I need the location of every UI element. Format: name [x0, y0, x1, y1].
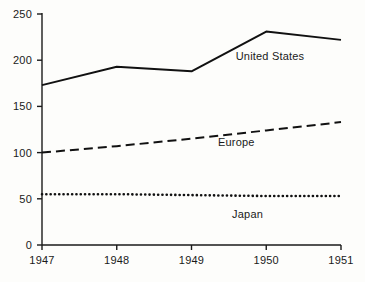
x-axis-tick-label: 1947 — [29, 254, 54, 266]
y-axis-tick-label: 150 — [0, 100, 32, 112]
x-axis-tick-label: 1949 — [179, 254, 204, 266]
series-line-japan — [42, 194, 341, 196]
y-axis-tick-label: 100 — [0, 147, 32, 159]
series-label-europe: Europe — [218, 136, 255, 148]
series-line-europe — [42, 122, 341, 152]
series-label-japan: Japan — [232, 208, 263, 220]
x-axis-tick-label: 1948 — [104, 254, 129, 266]
series-label-united-states: United States — [236, 50, 305, 62]
x-axis-tick-label: 1951 — [328, 254, 353, 266]
y-axis-tick-label: 200 — [0, 54, 32, 66]
chart-canvas — [0, 0, 365, 282]
y-axis-tick-label: 50 — [0, 193, 32, 205]
x-axis-tick-label: 1950 — [254, 254, 279, 266]
y-axis-tick-label: 0 — [0, 239, 32, 251]
line-chart: 05010015020025019471948194919501951Unite… — [0, 0, 365, 282]
y-axis-tick-label: 250 — [0, 8, 32, 20]
